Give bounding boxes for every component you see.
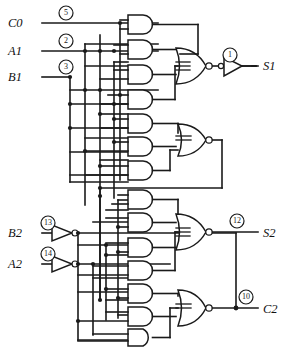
- and-gate-7: [70, 150, 178, 180]
- pin-badge-a2: 14: [41, 247, 55, 261]
- nor-gate-s1: [176, 25, 219, 85]
- and-gate-2: [114, 40, 176, 59]
- label-s2: S2: [263, 226, 276, 240]
- pin-badge-b1: 3: [59, 60, 73, 74]
- and-gate-3: [100, 65, 176, 84]
- label-b1: B1: [8, 70, 22, 84]
- and-gate-6: [85, 137, 176, 156]
- pin-number-a2: 14: [44, 249, 52, 258]
- pin-number-b1: 3: [64, 62, 68, 71]
- label-a2: A2: [7, 257, 22, 271]
- pin-number-b2: 13: [44, 218, 52, 227]
- pin-number-s2: 12: [233, 216, 241, 225]
- label-a1: A1: [7, 44, 22, 58]
- bus-feeders-bottom: [78, 200, 128, 340]
- pin-badge-c2: 10: [239, 290, 253, 304]
- pin-badge-c0: 5: [59, 6, 73, 20]
- circuit-diagram: 5 2 3 13 14 1 12 10 C0 A1 B1 B2 A2 S1 S2…: [0, 0, 292, 348]
- nor-gate-mid: [100, 124, 222, 188]
- pin-badge-a1: 2: [59, 34, 73, 48]
- pin-number-c0: 5: [64, 8, 68, 17]
- label-s1: S1: [263, 59, 276, 73]
- nor-gate-s2: [176, 214, 258, 250]
- and-gate-1: [120, 15, 198, 34]
- pin-badge-b2: 13: [41, 216, 55, 230]
- and-gate-5: [100, 114, 178, 133]
- label-b2: B2: [8, 226, 22, 240]
- pin-badge-s1: 1: [223, 48, 237, 62]
- pin-number-c2: 10: [242, 292, 250, 301]
- and-gate-10: [106, 238, 176, 257]
- pin-badge-s2: 12: [230, 214, 244, 228]
- label-c0: C0: [8, 16, 23, 30]
- pin-number-s1: 1: [228, 50, 232, 59]
- schematic-canvas: 5 2 3 13 14 1 12 10 C0 A1 B1 B2 A2 S1 S2…: [0, 0, 292, 348]
- label-c2: C2: [263, 302, 278, 316]
- and-gate-8: [112, 190, 178, 216]
- pin-number-a1: 2: [64, 36, 68, 45]
